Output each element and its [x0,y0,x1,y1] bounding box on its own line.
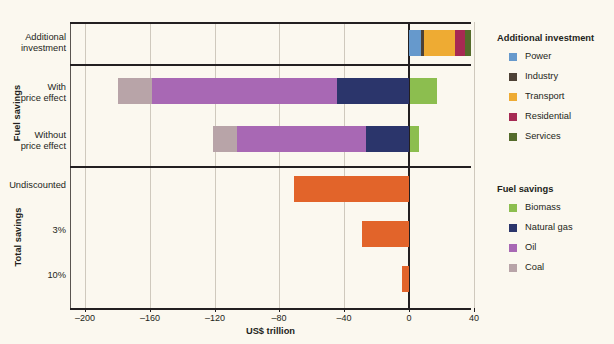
bar-undiscounted-total [294,176,409,202]
row-label-additional-investment: Additional investment [6,32,66,54]
row-label-undiscounted: Undiscounted [0,180,66,191]
legend-label: Oil [525,242,536,252]
bar-without-price-effect-coal [213,126,237,152]
legend-label: Residential [525,111,571,121]
x-tick--160 [150,308,151,312]
x-tick-label--200: –200 [65,313,105,323]
x-tick-label-40: 40 [454,313,494,323]
legend-title-0: Additional investment [497,33,594,43]
legend-swatch-icon [509,133,517,141]
legend-swatch-icon [509,244,517,252]
x-tick--120 [215,308,216,312]
bar-additional-investment-services [465,30,471,56]
x-tick-label-0: 0 [389,313,429,323]
x-tick-0 [409,308,410,312]
gridline-40 [474,22,475,308]
legend-label: Coal [525,262,544,272]
bar-rate-3-total [362,221,409,247]
x-tick--40 [344,308,345,312]
legend-swatch-icon [509,204,517,212]
bar-additional-investment-transport [424,30,455,56]
bar-with-price-effect-oil [152,78,337,104]
x-tick-label--80: –80 [259,313,299,323]
x-axis-title: US$ trillion [70,326,471,336]
bar-with-price-effect-biomass [410,78,437,104]
legend-swatch-icon [509,224,517,232]
legend-swatch-icon [509,113,517,121]
chart-root: Additional investment With price effect … [0,0,614,344]
x-tick--80 [279,308,280,312]
bar-without-price-effect-oil [237,126,366,152]
legend-label: Natural gas [525,222,573,232]
row-label-rate-3: 3% [0,225,66,236]
row-label-line1: 3% [0,225,66,236]
legend-label: Industry [525,71,558,81]
legend-title-1: Fuel savings [497,184,553,194]
bar-rate-10-total [402,266,409,292]
legend-label: Biomass [525,202,561,212]
bar-without-price-effect-natural-gas [366,126,409,152]
bar-without-price-effect-biomass [410,126,419,152]
bar-with-price-effect-coal [118,78,152,104]
x-tick-40 [474,308,475,312]
legend-label: Transport [525,91,564,101]
legend-swatch-icon [509,93,517,101]
legend-label: Power [525,51,551,61]
legend-swatch-icon [509,53,517,61]
row-label-line2: investment [6,43,66,54]
row-label-line1: Additional [6,32,66,43]
legend-swatch-icon [509,264,517,272]
x-tick-label--160: –160 [130,313,170,323]
panel-rule-top [70,22,471,24]
bar-additional-investment-residential [455,30,465,56]
group-label-total-savings: Total savings [13,205,23,269]
legend-label: Services [525,131,561,141]
row-label-rate-10: 10% [0,270,66,281]
panel-rule-2 [70,166,471,168]
row-label-line1: Undiscounted [0,180,66,191]
bar-with-price-effect-natural-gas [337,78,409,104]
x-tick--200 [85,308,86,312]
legend-swatch-icon [509,73,517,81]
x-axis-line [70,308,471,310]
x-tick-label--40: –40 [324,313,364,323]
bar-additional-investment-power [409,30,421,56]
panel-rule-1 [70,64,471,66]
x-tick-label--120: –120 [195,313,235,323]
row-label-line1: 10% [0,270,66,281]
group-label-fuel-savings: Fuel savings [12,83,22,143]
